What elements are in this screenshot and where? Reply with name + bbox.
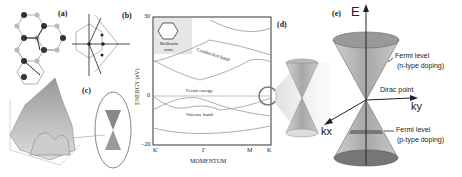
panel-d-label: (d) bbox=[277, 20, 287, 29]
axis-e-label: E bbox=[351, 4, 360, 19]
dirac-point-label: Dirac point bbox=[380, 86, 413, 93]
fermi-p-sub: (p-type doping) bbox=[397, 136, 444, 143]
xtick-kprime: K' bbox=[153, 147, 158, 153]
panel-b-label: (b) bbox=[122, 11, 132, 20]
xtick-k: K bbox=[267, 147, 271, 153]
panel-c-surface bbox=[10, 78, 131, 168]
fermi-n-label: Fermi level bbox=[395, 52, 429, 59]
valence-label: Valence band bbox=[186, 112, 213, 117]
axis-ky-label: ky bbox=[411, 100, 422, 112]
x-axis-label: MOMENTUM bbox=[190, 158, 226, 164]
axis-kx-label: kx bbox=[321, 125, 332, 137]
ytick-zero: 0 bbox=[147, 92, 150, 98]
xtick-gamma: Γ bbox=[202, 147, 205, 153]
fermi-n-sub: (n-type doping) bbox=[397, 62, 444, 69]
panel-a-atoms bbox=[14, 12, 66, 80]
inset-title2: zone bbox=[164, 47, 173, 52]
panel-e-label: (e) bbox=[332, 9, 341, 18]
fermi-energy-label: Fermi energy bbox=[186, 88, 213, 93]
panel-a-label: (a) bbox=[58, 9, 67, 18]
fermi-p-label: Fermi level bbox=[396, 126, 430, 133]
y-axis-label: ENERGY (eV) bbox=[134, 68, 140, 105]
xtick-m: M bbox=[247, 147, 252, 153]
ytick-top: 30 bbox=[144, 13, 150, 19]
inset-title: Brillouin bbox=[160, 41, 178, 46]
ytick-bottom: −20 bbox=[141, 141, 150, 147]
panel-c-label: (c) bbox=[82, 86, 91, 95]
